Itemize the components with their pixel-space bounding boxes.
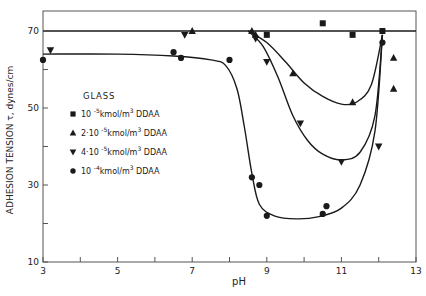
triangle-down-marker-icon [375, 144, 382, 151]
x-axis-label: pH [232, 276, 246, 287]
triangle-down-marker-icon [181, 32, 188, 39]
square-marker-icon [70, 111, 75, 116]
square-marker-icon [320, 20, 326, 26]
legend-item-label: 2·10 -5kmol/m3 DDAA [81, 126, 168, 138]
circle-marker-icon [226, 57, 232, 63]
square-marker-icon [350, 32, 356, 38]
x-axis: 35791113 [40, 257, 422, 276]
circle-marker-icon [170, 49, 176, 55]
y-tick-label: 30 [28, 180, 40, 190]
x-tick-label: 11 [336, 266, 347, 276]
y-tick-label: 70 [28, 26, 40, 36]
triangle-down-marker-icon [47, 47, 54, 54]
x-tick-label: 13 [410, 266, 421, 276]
triangle-up-marker-icon [390, 85, 397, 92]
triangle-up-marker-icon [390, 54, 397, 61]
circle-marker-icon [249, 174, 255, 180]
triangle-down-marker-icon [338, 159, 345, 166]
curve-series-2 [248, 31, 382, 105]
triangle-down-marker-icon [263, 59, 270, 66]
circle-marker-icon [178, 55, 184, 61]
data-points [40, 20, 397, 219]
x-tick-label: 9 [264, 266, 270, 276]
x-tick-label: 3 [40, 266, 46, 276]
circle-marker-icon [40, 57, 46, 63]
legend-item-label: 10 -4kmol/m3 DDAA [81, 164, 160, 176]
adhesion-tension-chart: 35791113 10305070 GLASS10 -5kmol/m3 DDAA… [0, 0, 426, 296]
chart-canvas: 35791113 10305070 GLASS10 -5kmol/m3 DDAA… [0, 0, 426, 296]
circle-marker-icon [256, 182, 262, 188]
circle-marker-icon [264, 213, 270, 219]
legend-title: GLASS [83, 91, 115, 101]
circle-marker-icon [323, 203, 329, 209]
legend-item-label: 10 -5kmol/m3 DDAA [81, 107, 160, 119]
y-tick-label: 50 [28, 103, 40, 113]
legend: GLASS10 -5kmol/m3 DDAA2·10 -5kmol/m3 DDA… [70, 91, 168, 176]
circle-marker-icon [70, 168, 75, 173]
triangle-down-marker-icon [252, 36, 259, 43]
y-tick-label: 10 [28, 257, 40, 267]
triangle-up-marker-icon [70, 130, 77, 136]
circle-marker-icon [379, 39, 385, 45]
x-tick-label: 5 [115, 266, 121, 276]
square-marker-icon [264, 32, 270, 38]
fitted-curves [43, 31, 382, 219]
legend-item-label: 4·10 -5kmol/m3 DDAA [81, 145, 168, 157]
triangle-up-marker-icon [349, 98, 356, 105]
curve-series-4 [43, 35, 382, 219]
curve-series-3 [248, 31, 382, 160]
triangle-down-marker-icon [70, 150, 77, 156]
square-marker-icon [379, 28, 385, 34]
x-tick-label: 7 [189, 266, 195, 276]
circle-marker-icon [320, 211, 326, 217]
y-axis-label: ADHESION TENSION τ, dynes/cm [5, 66, 15, 214]
